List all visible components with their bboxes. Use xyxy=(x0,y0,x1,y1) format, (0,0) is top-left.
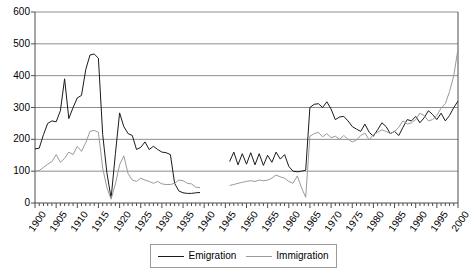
legend-swatch-emigration xyxy=(158,256,184,257)
y-axis-tick-label: 300 xyxy=(0,102,30,113)
data-series xyxy=(35,49,458,200)
y-axis-tick-label: 200 xyxy=(0,133,30,144)
legend-item-immigration: Immigration xyxy=(246,251,328,261)
legend-swatch-immigration xyxy=(246,256,272,257)
y-axis-tick-label: 600 xyxy=(0,6,30,17)
y-axis-tick-label: 100 xyxy=(0,165,30,176)
y-axis-tick-label: 0 xyxy=(0,197,30,208)
gridlines xyxy=(35,12,458,171)
y-axis-tick-label: 400 xyxy=(0,70,30,81)
legend-item-emigration: Emigration xyxy=(158,251,236,261)
legend-label-emigration: Emigration xyxy=(188,251,236,261)
y-axis-tick-label: 500 xyxy=(0,38,30,49)
chart-container: 0100200300400500600 19001905191019151920… xyxy=(0,0,471,274)
axis-ticks xyxy=(31,12,458,208)
chart-legend: Emigration Immigration xyxy=(150,244,337,268)
legend-label-immigration: Immigration xyxy=(276,251,328,261)
